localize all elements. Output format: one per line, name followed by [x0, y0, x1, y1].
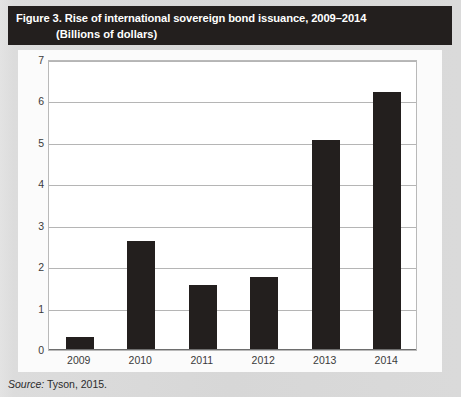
y-tick-label: 2	[22, 261, 44, 273]
y-tick-label: 1	[22, 303, 44, 315]
chart-panel: 01234567 200920102011201220132014	[18, 50, 442, 372]
x-axis-line	[49, 349, 416, 350]
x-tick-label: 2010	[129, 354, 152, 366]
y-axis-tick-labels: 01234567	[22, 60, 44, 351]
bar	[373, 92, 401, 349]
plot-area	[48, 60, 417, 351]
bar	[66, 337, 94, 349]
bar	[189, 285, 217, 349]
figure-title-bar: Figure 3. Rise of international sovereig…	[8, 6, 452, 45]
figure-title-line1: Figure 3. Rise of international sovereig…	[16, 10, 444, 26]
bar	[250, 277, 278, 350]
x-tick-label: 2013	[313, 354, 336, 366]
y-tick-label: 6	[22, 95, 44, 107]
x-tick-label: 2012	[252, 354, 275, 366]
x-tick-label: 2009	[67, 354, 90, 366]
source-text: Tyson, 2015.	[44, 378, 107, 390]
y-tick-label: 7	[22, 54, 44, 66]
bar	[127, 241, 155, 349]
x-tick-label: 2014	[375, 354, 398, 366]
bar-series	[49, 61, 416, 350]
y-tick-label: 5	[22, 137, 44, 149]
bar	[312, 140, 340, 349]
x-axis-tick-labels: 200920102011201220132014	[48, 354, 417, 372]
source-note: Source: Tyson, 2015.	[8, 378, 107, 390]
figure-title-line2: (Billions of dollars)	[16, 26, 444, 42]
y-tick-label: 3	[22, 220, 44, 232]
x-tick-label: 2011	[190, 354, 213, 366]
plot-wrapper: 01234567 200920102011201220132014	[48, 60, 417, 351]
y-tick-label: 0	[22, 344, 44, 356]
y-tick-label: 4	[22, 178, 44, 190]
source-label: Source:	[8, 378, 44, 390]
